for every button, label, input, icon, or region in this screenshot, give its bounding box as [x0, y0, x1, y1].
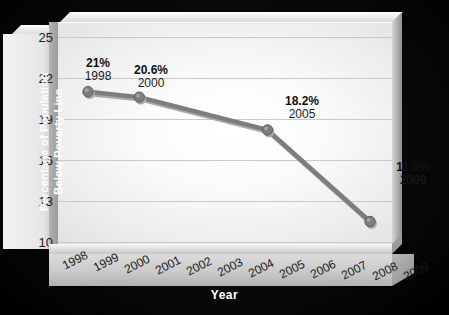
y-axis-title-line1: Percentage of Population — [38, 73, 50, 212]
data-label-2009-year: 2009 — [386, 174, 440, 187]
x-tick-2006: 2006 — [308, 257, 338, 282]
x-axis-tick-labels: 1998 1999 2000 2001 2002 2003 2004 2005 … — [58, 252, 403, 292]
data-label-2005-value: 18.2% — [275, 95, 329, 108]
data-point-2005[interactable] — [262, 125, 272, 135]
data-label-2005: 18.2% 2005 — [275, 95, 329, 121]
marker-highlight-1998 — [85, 88, 89, 92]
data-label-1998: 21% 1998 — [76, 57, 120, 83]
data-label-2009-value: 11.5% — [386, 161, 440, 174]
data-label-2000-year: 2000 — [124, 77, 178, 90]
y-axis-title: Percentage of Population Below Poverty L… — [37, 47, 65, 237]
x-tick-2002: 2002 — [184, 254, 214, 279]
data-label-2000-value: 20.6% — [124, 64, 178, 77]
marker-highlight-2009 — [367, 218, 371, 222]
x-tick-2005: 2005 — [277, 257, 307, 282]
x-tick-1998: 1998 — [60, 248, 90, 273]
x-axis-title: Year — [0, 288, 449, 302]
y-tick-25: 25 — [9, 31, 53, 44]
series-line-shadow — [90, 94, 372, 224]
marker-highlight-2005 — [264, 127, 268, 131]
data-point-2000[interactable] — [134, 92, 144, 102]
data-label-1998-value: 21% — [76, 57, 120, 70]
y-tick-10: 10 — [9, 236, 53, 249]
data-label-2005-year: 2005 — [275, 108, 329, 121]
data-label-2009: 11.5% 2009 — [386, 161, 440, 187]
x-tick-1999: 1999 — [91, 250, 121, 275]
marker-highlight-2000 — [136, 94, 140, 98]
series-markers — [83, 86, 377, 228]
x-tick-2000: 2000 — [122, 252, 152, 277]
y-axis-title-line2: Below Poverty Line — [52, 89, 64, 195]
data-point-2009[interactable] — [365, 216, 375, 226]
chart-slab-right-bevel — [392, 12, 402, 252]
x-tick-2003: 2003 — [215, 255, 245, 280]
x-tick-2008: 2008 — [370, 259, 400, 284]
x-tick-2004: 2004 — [246, 256, 276, 281]
data-label-1998-year: 1998 — [76, 70, 120, 83]
data-point-1998[interactable] — [83, 86, 93, 96]
x-tick-2007: 2007 — [339, 258, 369, 283]
x-tick-2001: 2001 — [153, 253, 183, 278]
data-label-2000: 20.6% 2000 — [124, 64, 178, 90]
chart-root: 25 22 19 16 13 10 21% 1998 20.6% 2000 18… — [0, 0, 449, 315]
